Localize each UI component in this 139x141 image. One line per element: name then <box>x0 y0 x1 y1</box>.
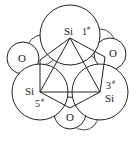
si-o-ring-diagram: Si 1 # 3 # Si Si 5 # O O O <box>0 0 139 141</box>
oxygen-right-label: O <box>109 47 117 59</box>
silicon-3-superscript: # <box>112 79 115 85</box>
silicon-5-number: 5 <box>35 98 40 109</box>
silicon-5-label: Si <box>25 85 34 97</box>
oxygen-bottom-label: O <box>66 111 74 123</box>
silicon-5-superscript: # <box>41 97 44 103</box>
silicon-1-superscript: # <box>87 25 90 31</box>
oxygen-left-label: O <box>18 52 26 64</box>
silicon-3-number: 3 <box>106 80 111 91</box>
silicon-3-label: Si <box>105 92 114 104</box>
silicon-1-label: Si <box>64 25 73 37</box>
